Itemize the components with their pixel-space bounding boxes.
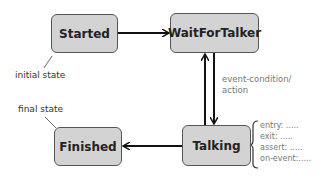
- talking-detail-entry: entry: .....: [260, 120, 299, 131]
- initial-state-pointer: [44, 56, 52, 68]
- final-state-pointer: [45, 117, 56, 128]
- state-label: Finished: [59, 140, 116, 154]
- talking-detail-exit: exit: .....: [260, 131, 293, 142]
- initial-state-label: initial state: [15, 70, 65, 80]
- final-state-label: final state: [18, 104, 63, 114]
- state-label: Talking: [192, 139, 240, 153]
- state-finished: Finished: [54, 127, 122, 166]
- state-label: Started: [59, 27, 110, 41]
- state-talking: Talking: [182, 125, 251, 166]
- state-label: WaitForTalker: [168, 26, 261, 40]
- state-started: Started: [51, 14, 118, 53]
- talking-detail-assert: assert: .....: [260, 142, 303, 153]
- talking-detail-on-event: on-event:.....: [260, 153, 311, 164]
- transition-label-line1: event-condition/: [222, 74, 291, 85]
- transition-label-line2: action: [222, 85, 248, 96]
- state-waitfortalker: WaitForTalker: [170, 13, 259, 53]
